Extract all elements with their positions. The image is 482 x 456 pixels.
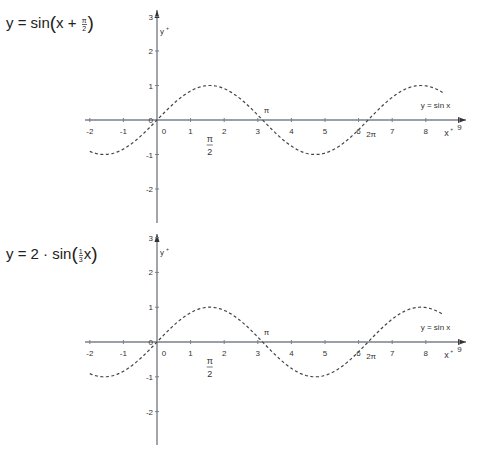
x-axis-label-sup: + xyxy=(450,348,453,354)
half-pi-denominator: 2 xyxy=(207,147,212,157)
y-tick-label: 3 xyxy=(149,234,154,243)
x-tick-label: 5 xyxy=(323,349,328,358)
x-tick-label: -1 xyxy=(120,127,128,136)
y-tick-label: -2 xyxy=(146,185,154,194)
y-tick-label: -1 xyxy=(146,151,154,160)
curve-label: y = sin x xyxy=(421,323,451,332)
y-tick-label: -2 xyxy=(146,408,154,417)
y-tick-label: 2 xyxy=(149,268,154,277)
x-tick-label: 1 xyxy=(188,127,193,136)
x-tick-label: -2 xyxy=(86,127,94,136)
x-tick-label: 5 xyxy=(323,127,328,136)
x-tick-label: 9 xyxy=(457,345,462,354)
chart-2-plot: -2-101234567893210-1-2y+x+π2π2πy = sin x xyxy=(0,222,482,452)
x-tick-label: 2 xyxy=(222,127,227,136)
x-tick-label: 9 xyxy=(457,123,462,132)
y-axis-label-sup: + xyxy=(166,246,169,252)
pi-label: π xyxy=(264,328,270,337)
two-pi-label: 2π xyxy=(366,352,376,361)
x-tick-label: 8 xyxy=(424,349,429,358)
x-tick-label: -1 xyxy=(120,349,128,358)
y-axis-label: y xyxy=(160,248,164,257)
x-tick-label: 0 xyxy=(162,349,167,358)
x-tick-label: 6 xyxy=(356,349,361,358)
x-tick-label: 3 xyxy=(256,127,261,136)
x-tick-label: 7 xyxy=(390,127,395,136)
x-tick-label: 2 xyxy=(222,349,227,358)
half-pi-denominator: 2 xyxy=(207,369,212,379)
y-tick-label: 3 xyxy=(149,13,154,22)
half-pi-numerator: π xyxy=(207,134,213,144)
curve-label: y = sin x xyxy=(421,101,451,110)
y-tick-label: 1 xyxy=(149,303,154,312)
x-tick-label: -2 xyxy=(86,349,94,358)
x-tick-label: 3 xyxy=(256,349,261,358)
x-tick-label: 7 xyxy=(390,349,395,358)
half-pi-numerator: π xyxy=(207,356,213,366)
x-axis-label: x xyxy=(444,128,449,138)
x-tick-label: 4 xyxy=(289,349,294,358)
x-tick-label: 0 xyxy=(162,127,167,136)
two-pi-label: 2π xyxy=(366,130,376,139)
pi-label: π xyxy=(264,106,270,115)
x-tick-label: 4 xyxy=(289,127,294,136)
chart-1-plot: -2-101234567893210-1-2y+x+π2π2πy = sin x xyxy=(0,0,482,230)
x-axis-label: x xyxy=(444,350,449,360)
y-axis-label: y xyxy=(160,27,164,36)
y-tick-label: -1 xyxy=(146,373,154,382)
x-axis-label-sup: + xyxy=(450,126,453,132)
x-tick-label: 1 xyxy=(188,349,193,358)
y-axis-label-sup: + xyxy=(166,25,169,31)
x-tick-label: 8 xyxy=(424,127,429,136)
y-tick-label: 2 xyxy=(149,47,154,56)
y-tick-label: 1 xyxy=(149,82,154,91)
